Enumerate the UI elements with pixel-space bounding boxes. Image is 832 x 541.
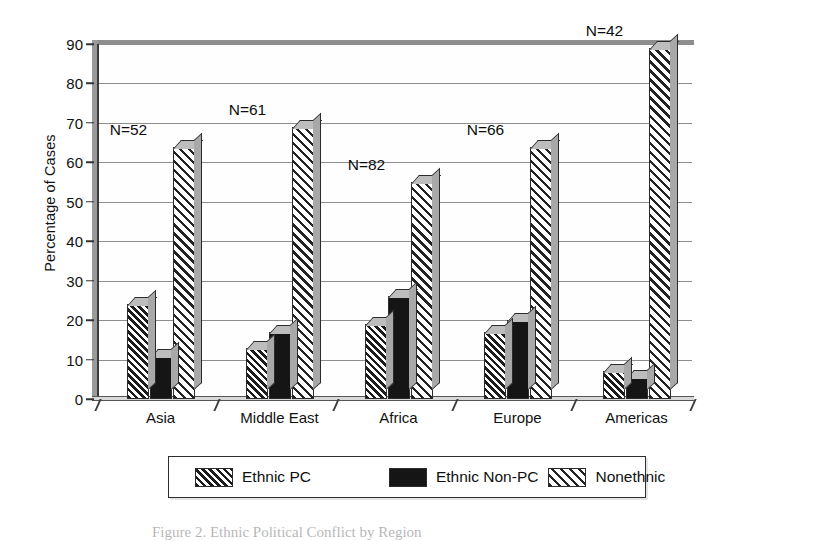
chart-legend: Ethnic PCEthnic Non-PCNonethnic (168, 456, 646, 498)
bar (127, 304, 149, 399)
bar-side-face (551, 132, 559, 390)
n-count-label: N=52 (110, 121, 148, 139)
legend-label: Ethnic PC (242, 468, 311, 486)
y-tick-mark (86, 319, 94, 321)
y-tick-label: 40 (41, 233, 83, 250)
n-count-label: N=61 (229, 101, 267, 119)
y-tick-mark (86, 122, 94, 124)
y-tick-mark (86, 398, 94, 400)
bar (484, 332, 506, 399)
bar-side-face (290, 318, 298, 390)
bar-side-face (432, 168, 440, 390)
y-tick-mark (86, 201, 94, 203)
y-tick-mark (86, 240, 94, 242)
legend-item[interactable]: Ethnic Non-PC (389, 468, 539, 487)
y-tick-label: 20 (41, 312, 83, 329)
bar (246, 348, 268, 399)
n-count-label: N=42 (586, 22, 624, 40)
legend-swatch (389, 468, 427, 487)
bar (365, 324, 387, 399)
legend-label: Nonethnic (595, 468, 665, 486)
bars-layer (97, 44, 692, 399)
y-tick-label: 80 (41, 75, 83, 92)
x-category-label: Americas (605, 409, 668, 426)
bar-side-face (386, 310, 394, 390)
y-tick-label: 70 (41, 114, 83, 131)
bar (649, 48, 671, 399)
y-tick-label: 90 (41, 36, 83, 53)
y-tick-label: 50 (41, 193, 83, 210)
legend-swatch (548, 468, 586, 487)
bar-side-face (194, 132, 202, 390)
y-tick-mark (86, 280, 94, 282)
legend-swatch (195, 468, 233, 487)
bar-side-face (267, 334, 275, 390)
x-category-label: Europe (493, 409, 541, 426)
bar-side-face (148, 290, 156, 390)
y-tick-mark (86, 83, 94, 85)
bar-side-face (409, 282, 417, 390)
x-category-label: Asia (146, 409, 175, 426)
legend-item[interactable]: Nonethnic (548, 468, 665, 487)
y-tick-label: 10 (41, 351, 83, 368)
bar (603, 371, 625, 399)
bar-side-face (505, 318, 513, 390)
y-tick-label: 60 (41, 154, 83, 171)
y-tick-mark (86, 162, 94, 164)
y-tick-mark (86, 359, 94, 361)
figure-caption: Figure 2. Ethnic Political Conflict by R… (152, 524, 672, 541)
y-tick-label: 30 (41, 272, 83, 289)
bar-side-face (313, 113, 321, 390)
x-category-label: Middle East (240, 409, 318, 426)
bar-side-face (171, 341, 179, 390)
x-category-label: Africa (379, 409, 417, 426)
y-tick-mark (86, 43, 94, 45)
y-tick-label: 0 (41, 391, 83, 408)
legend-label: Ethnic Non-PC (436, 468, 539, 486)
bar-side-face (670, 34, 678, 390)
n-count-label: N=66 (467, 121, 505, 139)
bar-side-face (528, 306, 536, 390)
legend-item[interactable]: Ethnic PC (195, 468, 311, 487)
n-count-label: N=82 (348, 156, 386, 174)
